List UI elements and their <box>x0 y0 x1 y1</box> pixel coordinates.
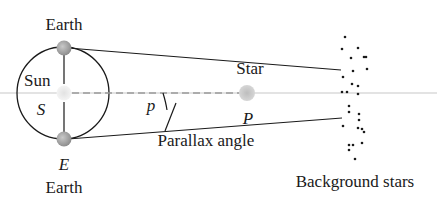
background-star-dot <box>342 125 345 128</box>
parallax-angle-arc <box>163 93 167 110</box>
sun-icon <box>57 86 72 101</box>
earth-top-icon <box>57 41 72 56</box>
background-star-dot <box>365 56 368 59</box>
background-star-dot <box>344 36 347 39</box>
background-star-dot <box>341 48 344 51</box>
background-star-dot <box>363 131 366 134</box>
background-star-dot <box>348 105 351 108</box>
background-star-dot <box>366 68 369 71</box>
parallax-diagram: Earth Sun S E Earth Star P p Parallax an… <box>0 0 437 203</box>
background-star-dot <box>361 142 364 145</box>
parallax-angle-label: Parallax angle <box>158 131 255 150</box>
background-stars-label: Background stars <box>296 172 415 191</box>
earth-symbol-label: E <box>58 155 70 174</box>
background-star-dot <box>361 128 364 131</box>
background-star-dot <box>341 91 344 94</box>
background-star-dot <box>351 83 354 86</box>
background-star-dot <box>346 91 349 94</box>
angle-symbol-label: p <box>146 96 156 115</box>
background-star-dot <box>342 76 345 79</box>
background-star-dot <box>358 113 361 116</box>
background-star-dot <box>348 111 351 114</box>
background-star-dot <box>348 144 351 147</box>
earth-top-label: Earth <box>46 15 83 34</box>
background-star-dot <box>358 119 361 122</box>
background-stars <box>341 36 369 161</box>
earth-bottom-icon <box>57 132 72 147</box>
background-star-dot <box>357 47 360 50</box>
background-star-dot <box>348 149 351 152</box>
star-symbol-label: P <box>242 109 253 128</box>
background-star-dot <box>352 144 355 147</box>
sun-label: Sun <box>24 71 51 90</box>
background-star-dot <box>357 127 360 130</box>
sightline-top <box>68 48 341 70</box>
background-star-dot <box>357 93 360 96</box>
earth-bottom-label: Earth <box>46 178 83 197</box>
star-icon <box>239 85 255 101</box>
background-star-dot <box>357 85 360 88</box>
star-label: Star <box>236 59 264 78</box>
background-star-dot <box>350 57 353 60</box>
background-star-dot <box>354 158 357 161</box>
background-star-dot <box>352 70 355 73</box>
sun-symbol-label: S <box>37 100 46 119</box>
